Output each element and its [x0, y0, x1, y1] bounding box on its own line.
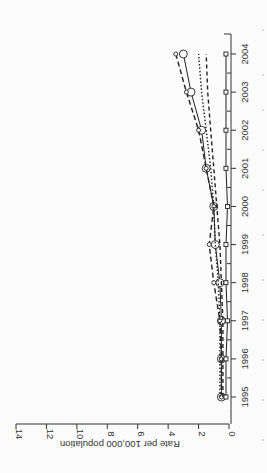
data-point-marker [197, 128, 201, 132]
y-axis-label: Rate per 100,000 population [60, 439, 180, 450]
rate-tick-label: 4 [167, 431, 178, 436]
page-edge-marks [258, 0, 267, 473]
chart-series [174, 50, 230, 401]
data-point-marker [216, 279, 224, 287]
data-point-marker [224, 281, 228, 285]
data-point-marker [174, 52, 178, 56]
data-point-marker [224, 52, 228, 56]
rate-tick-label: 14 [14, 429, 25, 440]
line-chart: 0246810121419951996199719981999200020012… [0, 0, 267, 473]
year-tick-label: 1996 [239, 348, 250, 369]
year-tick-label: 2000 [239, 196, 250, 217]
rate-tick-label: 6 [136, 431, 147, 436]
rate-tick-label: 12 [45, 429, 56, 440]
year-tick-label: 2003 [239, 82, 250, 103]
data-point-marker [225, 204, 229, 208]
data-point-marker [179, 50, 187, 58]
data-point-marker [224, 395, 228, 399]
data-point-marker [224, 90, 228, 94]
rate-tick-label: 10 [75, 429, 86, 440]
data-point-marker [184, 90, 188, 94]
rate-tick-label: 8 [106, 431, 117, 436]
rate-tick-label: 0 [227, 431, 238, 436]
data-point-marker [212, 281, 216, 285]
data-point-marker [224, 243, 228, 247]
data-point-marker [224, 128, 228, 132]
data-point-marker [224, 166, 228, 170]
data-point-marker [224, 357, 228, 361]
year-tick-label: 1998 [239, 272, 250, 293]
data-point-marker [207, 243, 211, 247]
year-tick-label: 2004 [239, 43, 250, 64]
series-line-3 [199, 54, 220, 397]
data-point-marker [204, 166, 208, 170]
year-tick-label: 1999 [239, 234, 250, 255]
data-point-marker [225, 319, 229, 323]
year-tick-label: 1997 [239, 310, 250, 331]
rate-tick-label: 2 [197, 431, 208, 436]
chart-axes [16, 34, 236, 429]
year-tick-label: 2002 [239, 120, 250, 141]
year-tick-label: 2001 [239, 158, 250, 179]
series-line-1 [183, 54, 221, 397]
year-tick-label: 1995 [239, 386, 250, 407]
